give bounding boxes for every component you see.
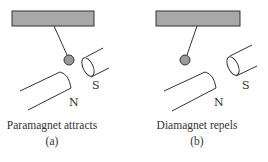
support-bar-b: [156, 11, 240, 26]
south-pole-magnet-b: [224, 45, 257, 77]
diamagnet-ball: [180, 55, 190, 65]
south-pole-magnet-a: [79, 48, 109, 78]
north-label-b: N: [214, 96, 224, 109]
north-pole-magnet-a: [20, 72, 71, 110]
north-pole-magnet-b: [164, 72, 216, 111]
caption-a: Paramagnet attracts: [7, 119, 98, 132]
north-label-a: N: [69, 96, 79, 109]
panel-b: S N Diamagnet repels (b): [156, 11, 257, 148]
paramagnet-ball: [64, 55, 74, 65]
sublabel-a: (a): [46, 135, 59, 148]
support-bar-a: [12, 11, 94, 26]
string-a: [54, 26, 67, 55]
caption-b: Diamagnet repels: [157, 119, 238, 132]
south-label-b: S: [242, 79, 250, 92]
south-label-a: S: [92, 79, 100, 92]
diagram-canvas: S N Paramagnet attracts (a) S N Diamagne…: [0, 0, 268, 162]
panel-a: S N Paramagnet attracts (a): [7, 11, 109, 148]
string-b: [187, 26, 197, 55]
sublabel-b: (b): [190, 135, 204, 148]
